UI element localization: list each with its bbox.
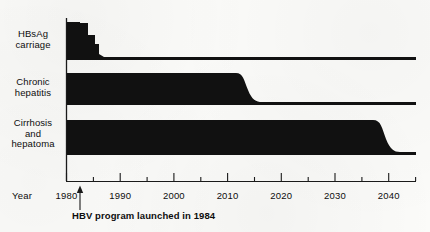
x-tick-label-1980: 1980 — [56, 190, 78, 201]
annotation-label-hbv-program: HBV program launched in 1984 — [72, 210, 215, 221]
series-label-hbsag: HBsAg carriage — [2, 29, 64, 50]
annotation-arrow-1984 — [77, 186, 83, 211]
x-tick-label-1990: 1990 — [109, 190, 131, 201]
x-axis-title: Year — [12, 190, 32, 201]
x-tick-label-2040: 2040 — [378, 190, 400, 201]
x-tick-label-2000: 2000 — [163, 190, 185, 201]
series-band-chronic — [67, 73, 416, 105]
series-label-chronic: Chronic hepatitis — [2, 77, 64, 98]
series-band-hbsag — [67, 22, 416, 60]
x-tick-label-2020: 2020 — [270, 190, 292, 201]
series-band-cirrhosis — [67, 120, 416, 155]
x-tick-label-2030: 2030 — [324, 190, 346, 201]
x-tick-label-2010: 2010 — [217, 190, 239, 201]
series-label-cirrhosis: Cirrhosis and hepatoma — [2, 118, 64, 150]
figure-canvas: HBsAg carriage Chronic hepatitis Cirrhos… — [0, 0, 430, 232]
x-axis-ticks — [67, 173, 416, 181]
